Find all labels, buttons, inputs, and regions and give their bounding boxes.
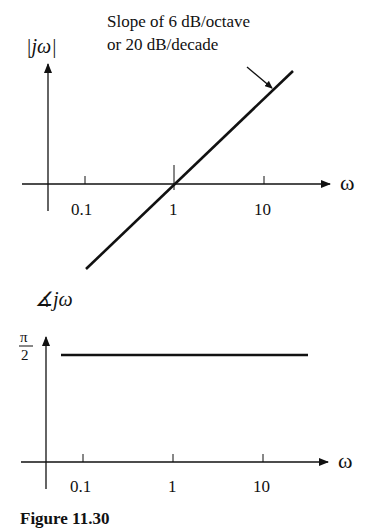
figure-caption: Figure 11.30 [20, 510, 109, 527]
pi-denominator: 2 [21, 348, 29, 363]
bode-diagram [0, 0, 372, 532]
magnitude-label: |jω| [26, 36, 57, 56]
phase-label: ∡jω [35, 289, 73, 309]
x-axis-symbol: ω [338, 450, 352, 472]
annotation-line-2: or 20 dB/decade [107, 36, 218, 53]
annotation-arrow [247, 67, 272, 88]
x-tick-label-0.1: 0.1 [70, 478, 91, 495]
magnitude-curve [86, 71, 293, 269]
pi-numerator: π [20, 330, 28, 345]
x-tick-label-1: 1 [168, 478, 177, 495]
x-tick-label-10: 10 [254, 201, 271, 218]
x-tick-label-10: 10 [253, 478, 270, 495]
x-axis-symbol: ω [340, 172, 354, 194]
phase-plot [19, 337, 328, 489]
x-tick-label-1: 1 [169, 201, 178, 218]
x-tick-label-0.1: 0.1 [71, 201, 92, 218]
magnitude-plot [22, 64, 330, 269]
annotation-line-1: Slope of 6 dB/octave [107, 13, 250, 30]
